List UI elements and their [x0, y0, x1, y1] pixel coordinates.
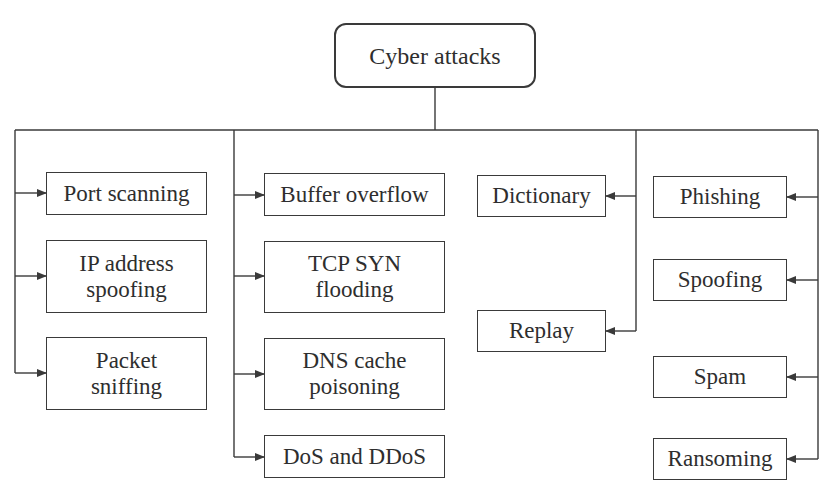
node-spoofing: Spoofing	[653, 259, 787, 301]
node-label-line-2: flooding	[316, 277, 394, 303]
node-label: Buffer overflow	[280, 182, 428, 208]
node-label: Phishing	[680, 184, 761, 210]
node-label-line-2: sniffing	[91, 374, 162, 400]
node-label-line-1: Packet	[96, 348, 157, 374]
node-label: Dictionary	[492, 183, 590, 209]
node-dns-cache-poisoning: DNS cache poisoning	[264, 338, 445, 410]
node-label: Port scanning	[64, 181, 190, 207]
node-tcp-syn-flooding: TCP SYN flooding	[264, 241, 445, 313]
node-label-line-2: spoofing	[86, 277, 167, 303]
cyber-attacks-diagram: Cyber attacks Port scanning IP address s…	[0, 0, 834, 501]
node-dos-and-ddos: DoS and DDoS	[264, 435, 445, 478]
node-label: Replay	[509, 318, 574, 344]
node-spam: Spam	[653, 356, 787, 398]
node-label: Spoofing	[678, 267, 762, 293]
root-node-cyber-attacks: Cyber attacks	[334, 23, 536, 88]
node-ransoming: Ransoming	[653, 438, 787, 480]
node-label: DoS and DDoS	[283, 444, 426, 470]
node-dictionary: Dictionary	[477, 175, 606, 217]
node-label: Ransoming	[668, 446, 773, 472]
node-buffer-overflow: Buffer overflow	[264, 173, 445, 216]
node-replay: Replay	[477, 310, 606, 352]
node-label-line-2: poisoning	[309, 374, 400, 400]
node-label-line-1: TCP SYN	[308, 251, 401, 277]
node-ip-address-spoofing: IP address spoofing	[46, 240, 207, 313]
node-label-line-1: DNS cache	[302, 348, 406, 374]
node-packet-sniffing: Packet sniffing	[46, 337, 207, 410]
node-phishing: Phishing	[653, 176, 787, 218]
node-label: Spam	[694, 364, 746, 390]
node-port-scanning: Port scanning	[46, 172, 207, 215]
node-label: Cyber attacks	[369, 43, 500, 69]
node-label-line-1: IP address	[79, 251, 173, 277]
